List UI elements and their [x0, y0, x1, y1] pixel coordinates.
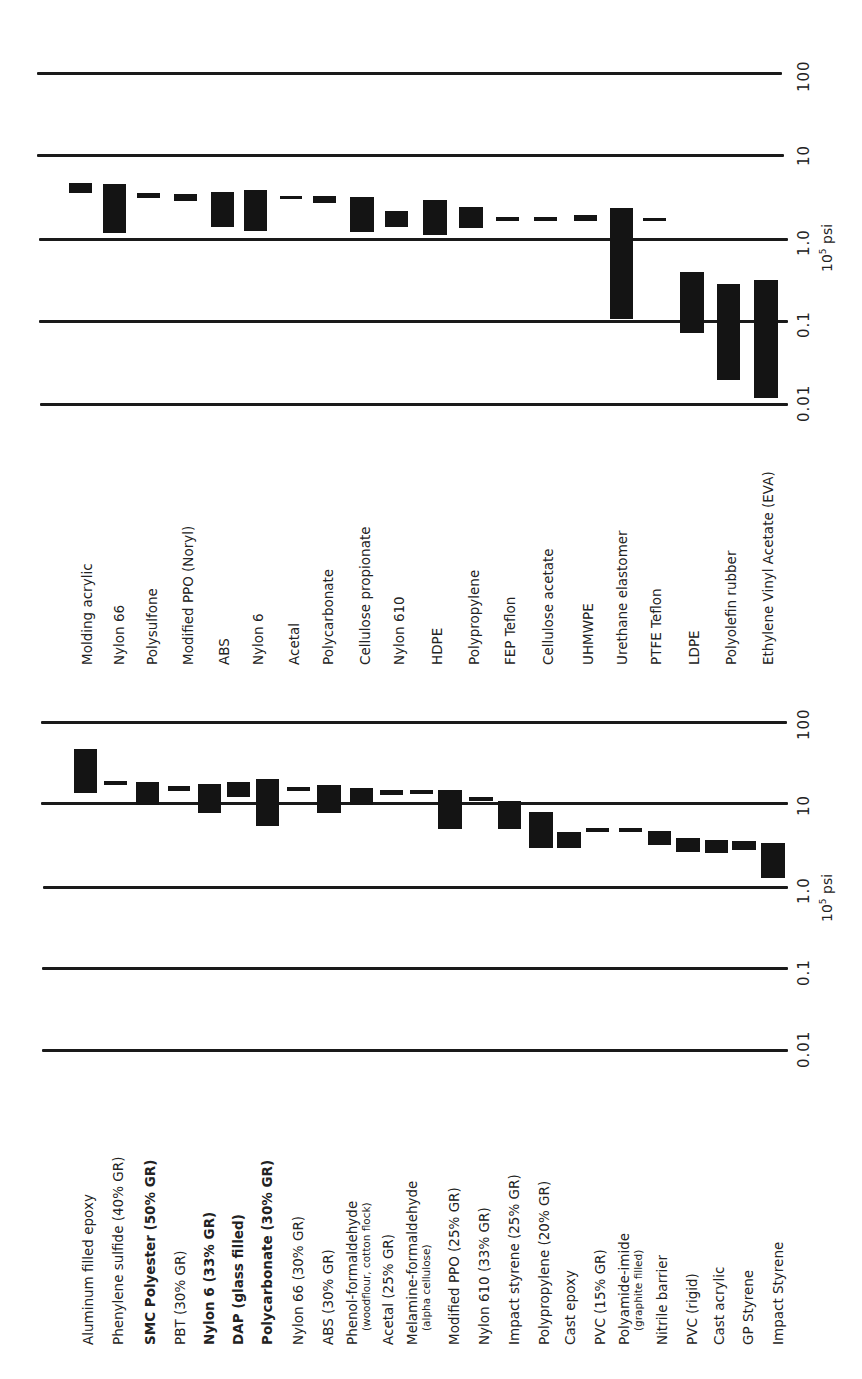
tick-label-0.01: 0.01 [795, 1031, 813, 1068]
gridline-10 [37, 154, 784, 157]
gridline-1 [39, 238, 788, 241]
category-label: HDPE [431, 628, 445, 665]
range-bar [469, 797, 493, 801]
category-label: Cellulose acetate [542, 548, 556, 665]
range-bar [619, 828, 642, 832]
range-bar [717, 284, 740, 380]
range-bar [350, 788, 373, 805]
range-bar [705, 840, 728, 853]
tick-label-100: 100 [795, 60, 813, 92]
range-bar [350, 197, 374, 232]
category-label-with-note: Melamine-formaldehyde (alpha cellulose) [406, 1181, 431, 1345]
category-label: PBT (30% GR) [174, 1250, 188, 1345]
category-label: DAP (glass filled) [232, 1214, 246, 1345]
range-bar [69, 183, 92, 193]
range-bar [680, 272, 704, 333]
category-label: Phenylene sulfide (40% GR) [112, 1157, 126, 1345]
category-label: Nylon 6 (33% GR) [203, 1212, 217, 1345]
range-bar [459, 207, 483, 228]
bottom-chart-panel: 100 10 1.0 0.1 0.01 105 psi Aluminum fil… [0, 690, 862, 1379]
range-bar [648, 831, 671, 845]
range-bar [676, 838, 700, 852]
range-bar [529, 812, 553, 848]
gridline-0.1 [39, 320, 788, 323]
tick-label-10: 10 [795, 145, 813, 166]
category-label: Polysulfone [146, 588, 160, 665]
category-label: Impact styrene (25% GR) [508, 1174, 522, 1345]
range-bar [754, 280, 778, 398]
range-bar [74, 749, 97, 793]
category-label: Impact Styrene [772, 1242, 786, 1345]
category-label: Polycarbonate [322, 569, 336, 665]
category-label: Cast epoxy [564, 1270, 578, 1345]
gridline-0.1 [42, 967, 788, 970]
range-bar [385, 211, 408, 227]
range-bar [287, 787, 310, 791]
category-label: Nylon 66 [113, 605, 127, 665]
category-label: ABS (30% GR) [322, 1249, 336, 1345]
category-label: PVC (rigid) [686, 1273, 700, 1345]
range-bar [244, 190, 267, 231]
category-label: LDPE [688, 630, 702, 665]
range-bar [198, 784, 221, 813]
range-bar [410, 790, 433, 794]
range-bar [317, 785, 341, 813]
range-bar [313, 196, 336, 203]
tick-label-1: 1.0 [795, 877, 813, 904]
gridline-0.01 [42, 1049, 788, 1052]
tick-label-100: 100 [795, 708, 813, 740]
category-label: Ethylene Vinyl Acetate (EVA) [762, 471, 776, 665]
range-bar [136, 782, 159, 805]
tick-label-10: 10 [795, 795, 813, 816]
tick-label-0.01: 0.01 [795, 385, 813, 422]
category-label: Polyolefin rubber [725, 551, 739, 665]
category-label: Polycarbonate (30% GR) [261, 1160, 275, 1345]
range-bar [498, 801, 521, 829]
tick-label-0.1: 0.1 [795, 311, 813, 338]
gridline-100 [37, 72, 782, 75]
category-label: Modified PPO (25% GR) [448, 1187, 462, 1345]
range-bar [380, 790, 403, 795]
category-label: Urethane elastomer [616, 530, 630, 665]
range-bar [168, 786, 190, 791]
top-chart-panel: 100 10 1.0 0.1 0.01 105 psi Molding acry… [0, 0, 862, 690]
category-label: Acetal (25% GR) [382, 1234, 396, 1345]
category-label: Nylon 66 (30% GR) [292, 1216, 306, 1345]
axis-unit-label: 105 psi [818, 224, 835, 272]
category-label: PTFE Teflon [650, 588, 664, 665]
range-bar [732, 841, 756, 850]
category-label: Polypropylene [468, 570, 482, 665]
gridline-0.01 [40, 403, 788, 406]
range-bar [256, 779, 279, 826]
range-bar [438, 790, 462, 829]
category-label-with-note: Polyamide-imide (graphite filled) [618, 1233, 643, 1345]
category-label: GP Styrene [742, 1270, 756, 1345]
gridline-100 [41, 721, 787, 724]
range-bar [423, 200, 447, 235]
tick-label-0.1: 0.1 [795, 959, 813, 986]
axis-unit-label: 105 psi [818, 874, 835, 922]
range-bar [280, 196, 302, 199]
range-bar [174, 194, 197, 201]
category-label: PVC (15% GR) [594, 1249, 608, 1345]
category-label: Modified PPO (Noryl) [182, 526, 196, 665]
category-label: Polypropylene (20% GR) [538, 1181, 552, 1345]
range-bar [761, 843, 785, 878]
range-bar [496, 217, 519, 221]
category-label: Nylon 610 [393, 596, 407, 665]
range-bar [643, 218, 666, 221]
range-bar [103, 184, 126, 233]
category-label-with-note: Phenol-formaldehyde (woodflour, cotton f… [346, 1201, 371, 1345]
category-label: FEP Teflon [504, 597, 518, 665]
category-label: Nylon 6 [252, 613, 266, 665]
range-bar [557, 832, 581, 848]
category-label: Cellulose propionate [359, 526, 373, 665]
range-bar [574, 215, 597, 221]
category-label: Nylon 610 (33% GR) [478, 1207, 492, 1345]
range-bar [586, 828, 609, 832]
category-label: UHMWPE [582, 603, 596, 665]
category-label: SMC Polyester (50% GR) [144, 1160, 158, 1345]
category-label: Molding acrylic [81, 563, 95, 665]
range-bar [610, 208, 633, 319]
gridline-1 [43, 886, 788, 889]
